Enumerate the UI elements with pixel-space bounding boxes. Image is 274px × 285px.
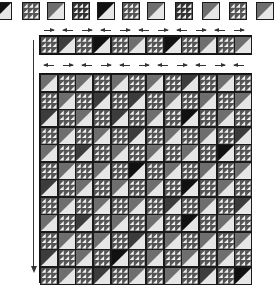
- grid-r7-c1-hst: [58, 197, 76, 215]
- grid-r0-c3-nine-patch: [93, 74, 111, 92]
- grid-r0-c0-hst: [40, 74, 58, 92]
- grid-r3-c9-hst: [199, 127, 217, 145]
- grid-r4-c7-nine-patch: [164, 144, 182, 162]
- arrow-left-icon: [82, 65, 92, 66]
- grid-r9-c2-nine-patch: [75, 232, 93, 250]
- grid-r0-c1-nine-patch: [58, 74, 76, 92]
- grid-r9-c6-nine-patch: [146, 232, 164, 250]
- strip-block-0-nine-patch: [40, 36, 58, 54]
- grid-r5-c1-hst: [58, 162, 76, 180]
- grid-r2-c7-nine-patch: [164, 109, 182, 127]
- grid-r4-c2-hst: [75, 144, 93, 162]
- arrow-left-icon: [158, 65, 168, 66]
- grid-r2-c4-hst: [111, 109, 129, 127]
- top-block-4-hst: [97, 2, 115, 20]
- grid-r11-c2-nine-patch: [75, 267, 93, 285]
- strip-block-2-nine-patch: [75, 36, 93, 54]
- grid-r7-c6-nine-patch: [146, 197, 164, 215]
- grid-r7-c7-hst: [164, 197, 182, 215]
- grid-r8-c6-hst: [146, 214, 164, 232]
- grid-r11-c8-nine-patch: [181, 267, 199, 285]
- top-block-2-hst: [47, 2, 65, 20]
- grid-r5-c2-nine-patch: [75, 162, 93, 180]
- grid-r4-c3-nine-patch: [93, 144, 111, 162]
- grid-r7-c3-hst: [93, 197, 111, 215]
- strip-block-10-nine-patch: [217, 36, 235, 54]
- grid-r4-c6-hst: [146, 144, 164, 162]
- grid-r5-c7-hst: [164, 162, 182, 180]
- grid-r6-c2-hst: [75, 179, 93, 197]
- grid-r0-c10-hst: [217, 74, 235, 92]
- grid-r7-c5-hst: [128, 197, 146, 215]
- grid-r4-c4-hst: [111, 144, 129, 162]
- arrow-right-icon: [234, 30, 244, 31]
- grid-r0-c7-nine-patch: [164, 74, 182, 92]
- grid-r2-c11-nine-patch: [234, 109, 252, 127]
- grid-r7-c2-nine-patch: [75, 197, 93, 215]
- grid-r6-c5-nine-patch: [128, 179, 146, 197]
- grid-r10-c11-nine-patch: [234, 249, 252, 267]
- arrow-right-icon: [196, 30, 206, 31]
- grid-r10-c9-nine-patch: [199, 249, 217, 267]
- grid-r10-c5-nine-patch: [128, 249, 146, 267]
- grid-r11-c7-hst: [164, 267, 182, 285]
- strip-block-4-nine-patch: [111, 36, 129, 54]
- arrow-left-icon: [196, 65, 206, 66]
- grid-r0-c2-hst: [75, 74, 93, 92]
- grid-r5-c11-hst: [234, 162, 252, 180]
- grid-r8-c1-nine-patch: [58, 214, 76, 232]
- grid-r5-c5-hst: [128, 162, 146, 180]
- grid-r2-c8-hst: [181, 109, 199, 127]
- grid-r10-c10-hst: [217, 249, 235, 267]
- grid-r11-c11-hst: [234, 267, 252, 285]
- grid-r5-c3-hst: [93, 162, 111, 180]
- grid-r1-c1-hst: [58, 92, 76, 110]
- grid-r9-c11-hst: [234, 232, 252, 250]
- grid-r0-c8-hst: [181, 74, 199, 92]
- arrow-right-icon: [101, 65, 111, 66]
- arrow-left-icon: [44, 65, 54, 66]
- grid-r8-c4-hst: [111, 214, 129, 232]
- grid-r9-c1-hst: [58, 232, 76, 250]
- grid-r10-c8-hst: [181, 249, 199, 267]
- grid-r9-c8-nine-patch: [181, 232, 199, 250]
- grid-r6-c1-nine-patch: [58, 179, 76, 197]
- strip-block-9-hst: [199, 36, 217, 54]
- grid-r3-c10-nine-patch: [217, 127, 235, 145]
- arrow-right-icon: [63, 65, 73, 66]
- press-arrows-below-strip: [40, 62, 252, 68]
- grid-r5-c6-nine-patch: [146, 162, 164, 180]
- grid-r1-c11-hst: [234, 92, 252, 110]
- grid-r10-c6-hst: [146, 249, 164, 267]
- grid-r2-c10-hst: [217, 109, 235, 127]
- arrow-down-icon: [31, 266, 37, 273]
- grid-r5-c10-nine-patch: [217, 162, 235, 180]
- grid-r6-c4-hst: [111, 179, 129, 197]
- grid-r3-c8-nine-patch: [181, 127, 199, 145]
- grid-r3-c2-nine-patch: [75, 127, 93, 145]
- grid-r2-c2-hst: [75, 109, 93, 127]
- grid-r7-c9-hst: [199, 197, 217, 215]
- grid-r0-c6-hst: [146, 74, 164, 92]
- grid-r1-c0-nine-patch: [40, 92, 58, 110]
- grid-r6-c0-hst: [40, 179, 58, 197]
- arrow-left-icon: [177, 30, 187, 31]
- grid-r5-c8-nine-patch: [181, 162, 199, 180]
- top-block-0-hst: [0, 2, 12, 20]
- top-block-1-nine-patch: [22, 2, 40, 20]
- arrow-left-icon: [215, 30, 225, 31]
- grid-r2-c6-hst: [146, 109, 164, 127]
- top-block-7-nine-patch: [175, 2, 193, 20]
- grid-r2-c9-nine-patch: [199, 109, 217, 127]
- grid-r6-c6-hst: [146, 179, 164, 197]
- grid-r2-c1-nine-patch: [58, 109, 76, 127]
- strip-block-3-hst: [93, 36, 111, 54]
- grid-r5-c4-nine-patch: [111, 162, 129, 180]
- arrow-right-icon: [177, 65, 187, 66]
- grid-r0-c4-hst: [111, 74, 129, 92]
- strip-block-11-hst: [234, 36, 252, 54]
- press-arrows-above-strip: [40, 27, 252, 33]
- grid-r1-c8-nine-patch: [181, 92, 199, 110]
- strip-block-1-hst: [58, 36, 76, 54]
- grid-r0-c9-nine-patch: [199, 74, 217, 92]
